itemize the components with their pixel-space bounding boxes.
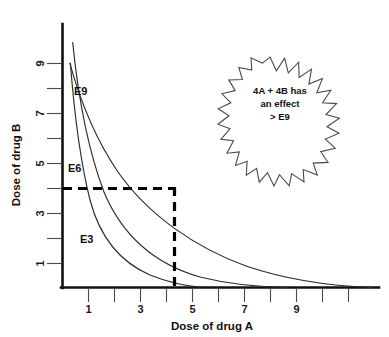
curve-labels: E9 E6 E3	[68, 85, 93, 245]
y-axis-title: Dose of drug B	[10, 124, 22, 206]
starburst-line-2: an effect	[260, 98, 300, 109]
y-tick-label-7: 7	[34, 110, 46, 116]
y-tick-label-5: 5	[34, 160, 46, 166]
x-tick-label-1: 1	[85, 303, 91, 315]
x-axis-title: Dose of drug A	[171, 320, 253, 332]
isobologram-figure: 1 3 5 7 9 Dose of drug B 1 3 5 7	[0, 0, 389, 337]
chart-svg: 1 3 5 7 9 Dose of drug B 1 3 5 7	[0, 0, 389, 337]
isobole-curves	[70, 43, 372, 288]
y-axis-ticks	[47, 64, 62, 264]
curve-label-e6: E6	[68, 162, 81, 174]
axes-group	[61, 24, 379, 288]
x-axis-tick-labels: 1 3 5 7 9	[85, 303, 299, 315]
y-tick-label-3: 3	[34, 210, 46, 216]
x-tick-label-7: 7	[241, 303, 247, 315]
starburst-line-3: > E9	[270, 111, 290, 122]
x-axis-ticks	[89, 288, 349, 302]
y-tick-label-9: 9	[34, 60, 46, 66]
x-tick-label-9: 9	[293, 303, 299, 315]
starburst-line-1: 4A + 4B has	[253, 85, 307, 96]
x-tick-label-3: 3	[137, 303, 143, 315]
curve-label-e3: E3	[80, 233, 93, 245]
x-tick-label-5: 5	[189, 303, 195, 315]
y-axis-tick-labels: 1 3 5 7 9	[34, 60, 46, 266]
curve-e3	[70, 63, 201, 287]
curve-label-e9: E9	[74, 85, 87, 97]
starburst-callout: 4A + 4B has an effect > E9	[218, 57, 339, 186]
y-tick-label-1: 1	[34, 260, 46, 266]
